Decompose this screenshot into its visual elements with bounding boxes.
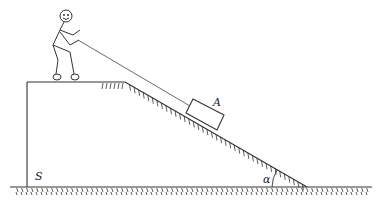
- ground: [10, 187, 372, 195]
- stick-figure-person: [53, 10, 80, 80]
- block-label: A: [213, 97, 221, 108]
- support-label: S: [35, 171, 43, 182]
- rope: [78, 40, 190, 106]
- plateau-hatch: [102, 83, 123, 89]
- head: [60, 10, 72, 22]
- angle-arc: [272, 170, 277, 187]
- angle-label: α: [263, 174, 270, 185]
- incline-diagram: [0, 0, 382, 210]
